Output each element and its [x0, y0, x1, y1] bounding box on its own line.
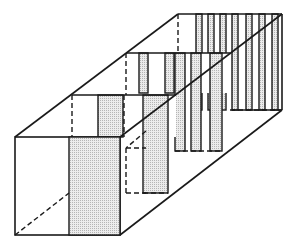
front-section	[15, 137, 120, 235]
box-diagram	[0, 0, 297, 248]
